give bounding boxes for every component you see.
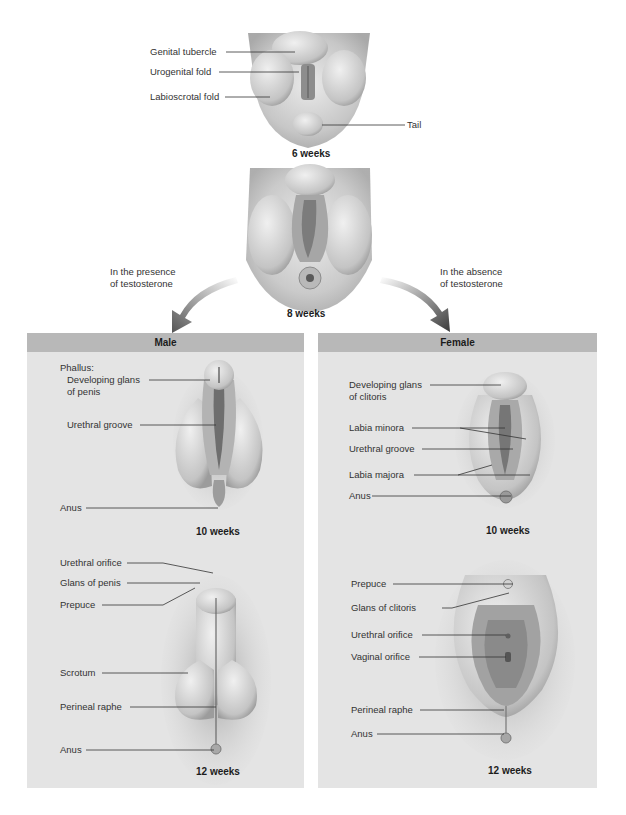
label-genital-tubercle: Genital tubercle — [150, 46, 217, 58]
label-perineal-raphe-female: Perineal raphe — [351, 704, 413, 716]
label-developing-glans-clitoris: Developing glans — [349, 379, 422, 391]
label-anus-female-12: Anus — [351, 728, 373, 740]
anatomy-illustrations — [0, 0, 626, 815]
label-scrotum: Scrotum — [60, 667, 95, 679]
male-12-weeks-illustration — [161, 575, 271, 785]
label-urethral-orifice-male: Urethral orifice — [60, 557, 122, 569]
female-10-weeks-illustration — [455, 372, 555, 508]
label-tail: Tail — [407, 119, 421, 131]
eight-weeks-illustration — [246, 164, 372, 312]
label-developing-glans-penis-2: of penis — [67, 386, 100, 398]
label-urethral-groove-female: Urethral groove — [349, 443, 414, 455]
caption-6-weeks: 6 weeks — [292, 148, 330, 159]
arrow-to-male — [172, 277, 238, 333]
male-10-weeks-illustration — [173, 360, 263, 510]
caption-female-12-weeks: 12 weeks — [488, 765, 532, 776]
label-perineal-raphe-male: Perineal raphe — [60, 701, 122, 713]
caption-male-10-weeks: 10 weeks — [196, 526, 240, 537]
label-urogenital-fold: Urogenital fold — [150, 66, 211, 78]
label-vaginal-orifice: Vaginal orifice — [351, 651, 410, 663]
label-prepuce-male: Prepuce — [60, 599, 95, 611]
label-glans-clitoris: Glans of clitoris — [351, 602, 416, 614]
branch-label-absence: In the absence of testosterone — [440, 266, 503, 290]
label-labia-minora: Labia minora — [349, 422, 404, 434]
label-labia-majora: Labia majora — [349, 469, 404, 481]
six-weeks-illustration — [248, 31, 370, 148]
female-12-weeks-illustration — [435, 560, 575, 760]
label-developing-glans-penis: Developing glans — [67, 374, 140, 386]
caption-female-10-weeks: 10 weeks — [486, 525, 530, 536]
caption-male-12-weeks: 12 weeks — [196, 766, 240, 777]
label-anus-male-10: Anus — [60, 502, 82, 514]
label-prepuce-female: Prepuce — [351, 578, 386, 590]
label-urethral-groove-male: Urethral groove — [67, 419, 132, 431]
label-developing-glans-clitoris-2: of clitoris — [349, 391, 386, 403]
label-labioscrotal-fold: Labioscrotal fold — [150, 91, 219, 103]
label-urethral-orifice-female: Urethral orifice — [351, 629, 413, 641]
label-phallus: Phallus: — [60, 362, 94, 374]
label-anus-female-10: Anus — [349, 490, 371, 502]
caption-8-weeks: 8 weeks — [287, 308, 325, 319]
branch-label-presence: In the presence of testosterone — [110, 266, 176, 290]
label-glans-penis: Glans of penis — [60, 577, 121, 589]
label-anus-male-12: Anus — [60, 744, 82, 756]
